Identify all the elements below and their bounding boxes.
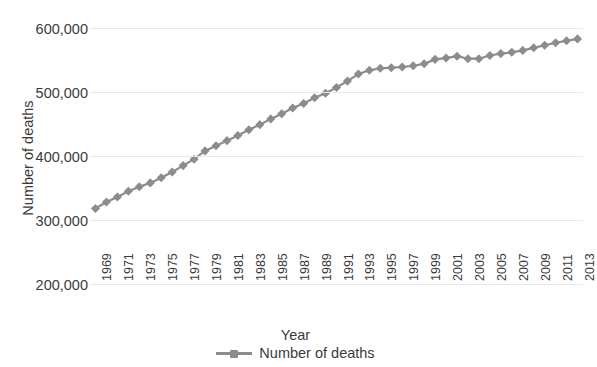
legend-marker-icon	[216, 347, 252, 359]
x-tick-label: 1975	[166, 253, 180, 281]
x-tick-label: 1993	[363, 253, 377, 281]
gridline-400000	[90, 156, 583, 157]
x-tick-label: 1983	[254, 253, 268, 281]
x-tick-label: 1977	[188, 253, 202, 281]
x-tick-label: 2005	[495, 253, 509, 281]
x-tick-label: 1991	[342, 253, 356, 281]
x-tick-label: 2013	[583, 253, 597, 281]
x-tick-label: 2001	[451, 253, 465, 281]
x-tick-label: 1997	[407, 253, 421, 281]
x-tick-label: 1969	[100, 253, 114, 281]
plot-area	[90, 22, 583, 277]
y-tick-label: 400,000	[26, 150, 88, 165]
y-tick-label: 200,000	[26, 278, 88, 293]
x-axis-title: Year	[0, 327, 591, 343]
x-axis-tick-labels: 1969197119731975197719791981198319851987…	[90, 281, 583, 333]
y-tick-label: 300,000	[26, 214, 88, 229]
x-tick-label: 2009	[539, 253, 553, 281]
chart-legend: Number of deaths	[0, 345, 591, 361]
x-tick-label: 1979	[210, 253, 224, 281]
legend-label: Number of deaths	[259, 345, 374, 361]
gridline-600000	[90, 28, 583, 29]
x-tick-label: 1987	[298, 253, 312, 281]
x-tick-label: 1999	[429, 253, 443, 281]
x-tick-label: 2003	[473, 253, 487, 281]
x-tick-label: 1985	[276, 253, 290, 281]
gridline-300000	[90, 220, 583, 221]
y-tick-label: 500,000	[26, 86, 88, 101]
gridline-500000	[90, 92, 583, 93]
x-tick-label: 2007	[517, 253, 531, 281]
x-tick-label: 1981	[232, 253, 246, 281]
x-tick-label: 2011	[561, 254, 575, 281]
y-tick-label: 600,000	[26, 22, 88, 37]
x-tick-label: 1971	[122, 253, 136, 281]
x-tick-label: 1989	[320, 253, 334, 281]
x-tick-label: 1973	[144, 253, 158, 281]
x-tick-label: 1995	[385, 253, 399, 281]
y-axis-tick-labels: 600,000 500,000 400,000 300,000 200,000	[24, 0, 88, 290]
